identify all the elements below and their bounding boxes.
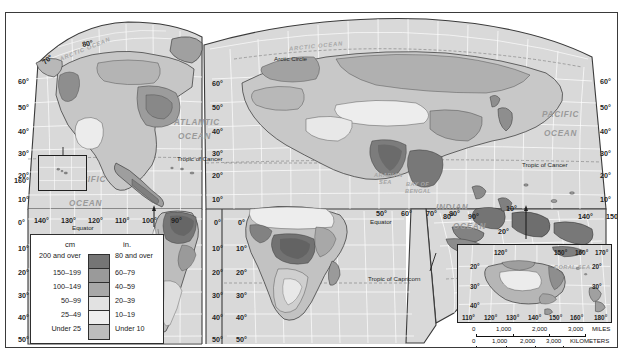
world-precipitation-map-page: 120°150°160°170°20°30°40°20°30°110°120°1… [0, 0, 625, 363]
legend-swatch-5 [89, 325, 109, 339]
miles-tick-2: 2,000 [532, 325, 547, 332]
lat-africa-3: 30° [236, 291, 247, 300]
lat-midleft-4: 20° [212, 171, 223, 180]
lon-americas-6: 90° [171, 216, 182, 225]
miles-unit: MILES [592, 325, 610, 332]
lon-afro-5: 90° [468, 212, 479, 221]
legend-in-1: 60–79 [115, 269, 163, 277]
precipitation-legend: cm in. 200 and over80 and over150–19960–… [30, 234, 164, 344]
lon-americas-3: 120° [88, 216, 103, 225]
australia-inset-box: 120°150°160°170°20°30°40°20°30°110°120°1… [457, 244, 612, 323]
lat-africa-5: 50° [236, 335, 247, 344]
aus-bottom-lon-3: 140° [528, 314, 541, 321]
lat-right-4: 20° [600, 171, 611, 180]
lat-midleft-11: 50° [212, 335, 223, 344]
lat-midleft-7: 10° [212, 244, 223, 253]
aus-bottom-lon-1: 120° [484, 314, 497, 321]
lat-left-0: 60° [18, 77, 29, 86]
lat-left-5: 10° [18, 195, 29, 204]
aus-bottom-lon-5: 160° [570, 314, 583, 321]
lon-americas-2: 130° [61, 216, 76, 225]
ocean-label-13: SEA [379, 179, 392, 185]
aus-side-lat-1: 30° [470, 283, 480, 290]
ocean-label-9: OCEAN [453, 222, 486, 231]
legend-cm-1: 150–199 [19, 269, 81, 277]
map-frame: 120°150°160°170°20°30°40°20°30°110°120°1… [5, 12, 618, 348]
lat-africa-0: 0° [238, 218, 245, 227]
km-tick-3: 3,000 [546, 337, 561, 344]
lat-left-11: 50° [18, 335, 29, 344]
legend-swatch-1 [89, 269, 109, 283]
lat-indian-1: 20° [498, 227, 509, 236]
legend-in-4: 10–19 [115, 311, 163, 319]
line-label-arctic-circle-0: Arctic Circle [274, 55, 307, 62]
lat-midleft-10: 40° [212, 313, 223, 322]
lat-right-3: 30° [600, 149, 611, 158]
lat-left-6: 0° [18, 218, 25, 227]
lat-africa-4: 40° [236, 313, 247, 322]
km-tick-1: 1,000 [492, 337, 507, 344]
miles-tick-1: 1,000 [496, 325, 511, 332]
legend-cm-5: Under 25 [19, 325, 81, 333]
legend-header-in: in. [123, 240, 131, 249]
km-scale-bar [476, 346, 564, 348]
lat-midleft-1: 50° [212, 103, 223, 112]
ocean-label-3: OCEAN [178, 132, 211, 141]
lat-indian-0: 10° [506, 204, 517, 213]
coral-sea-label: CORAL SEA [554, 264, 590, 270]
ocean-label-5: OCEAN [69, 199, 102, 208]
hawaii-inset-box [38, 155, 87, 191]
line-label-equator-4: Equator [370, 218, 392, 225]
aus-top-lon-0: 120° [494, 249, 507, 256]
lat-right-2: 40° [600, 127, 611, 136]
km-tick-0: 0 [472, 337, 475, 344]
aus-side-lat-3: 20° [592, 263, 602, 270]
line-label-equator-3: Equator [72, 224, 94, 231]
aus-side-lat-2: 40° [470, 302, 480, 309]
aus-side-lat-4: 30° [592, 283, 602, 290]
aus-top-lon-3: 170° [595, 249, 608, 256]
lat-right-1: 50° [600, 103, 611, 112]
lat-midleft-6: 0° [214, 218, 221, 227]
legend-in-3: 20–39 [115, 297, 163, 305]
aus-bottom-lon-4: 150° [549, 314, 562, 321]
lon-americas-1: 140° [34, 216, 49, 225]
line-label-tropic-of-cancer-2: Tropic of Cancer [522, 161, 568, 168]
aus-bottom-lon-0: 110° [462, 314, 475, 321]
line-label-tropic-of-capricorn-5: Tropic of Capricorn [368, 275, 420, 282]
lat-left-1: 50° [18, 103, 29, 112]
lat-midleft-2: 40° [212, 127, 223, 136]
lon-afro-7: 150° [606, 212, 618, 221]
ocean-label-7: OCEAN [544, 129, 577, 138]
lon-afro-2: 70° [426, 209, 437, 218]
legend-cm-3: 50–99 [19, 297, 81, 305]
legend-swatch-0 [89, 255, 109, 269]
legend-swatch-4 [89, 311, 109, 325]
aus-bottom-lon-2: 130° [506, 314, 519, 321]
lon-afro-1: 60° [401, 209, 412, 218]
legend-cm-4: 25–49 [19, 311, 81, 319]
lat-right-0: 60° [600, 77, 611, 86]
lat-africa-2: 20° [236, 268, 247, 277]
legend-in-5: Under 10 [115, 325, 163, 333]
lat-left-3: 30° [18, 149, 29, 158]
legend-cm-0: 200 and over [19, 252, 81, 260]
legend-swatch-3 [89, 297, 109, 311]
ocean-label-10: BAY OF [406, 181, 429, 187]
aus-side-lat-0: 20° [470, 263, 480, 270]
aus-top-lon-1: 150° [554, 249, 567, 256]
lon-americas-4: 110° [115, 216, 129, 225]
lat-midleft-8: 20° [212, 268, 223, 277]
km-tick-2: 2,000 [520, 337, 535, 344]
ocean-label-12: ARABIAN [374, 172, 403, 178]
ocean-label-2: ATLANTIC [174, 118, 220, 127]
lat-midleft-3: 30° [212, 149, 223, 158]
legend-in-0: 80 and over [115, 252, 163, 260]
legend-cm-2: 100–149 [19, 283, 81, 291]
lat-africa-1: 10° [236, 244, 247, 253]
lat-left-2: 40° [18, 127, 29, 136]
lon-afro-6: 140° [578, 212, 593, 221]
miles-tick-0: 0 [472, 325, 475, 332]
legend-header-cm: cm [65, 240, 75, 249]
legend-in-2: 40–59 [115, 283, 163, 291]
